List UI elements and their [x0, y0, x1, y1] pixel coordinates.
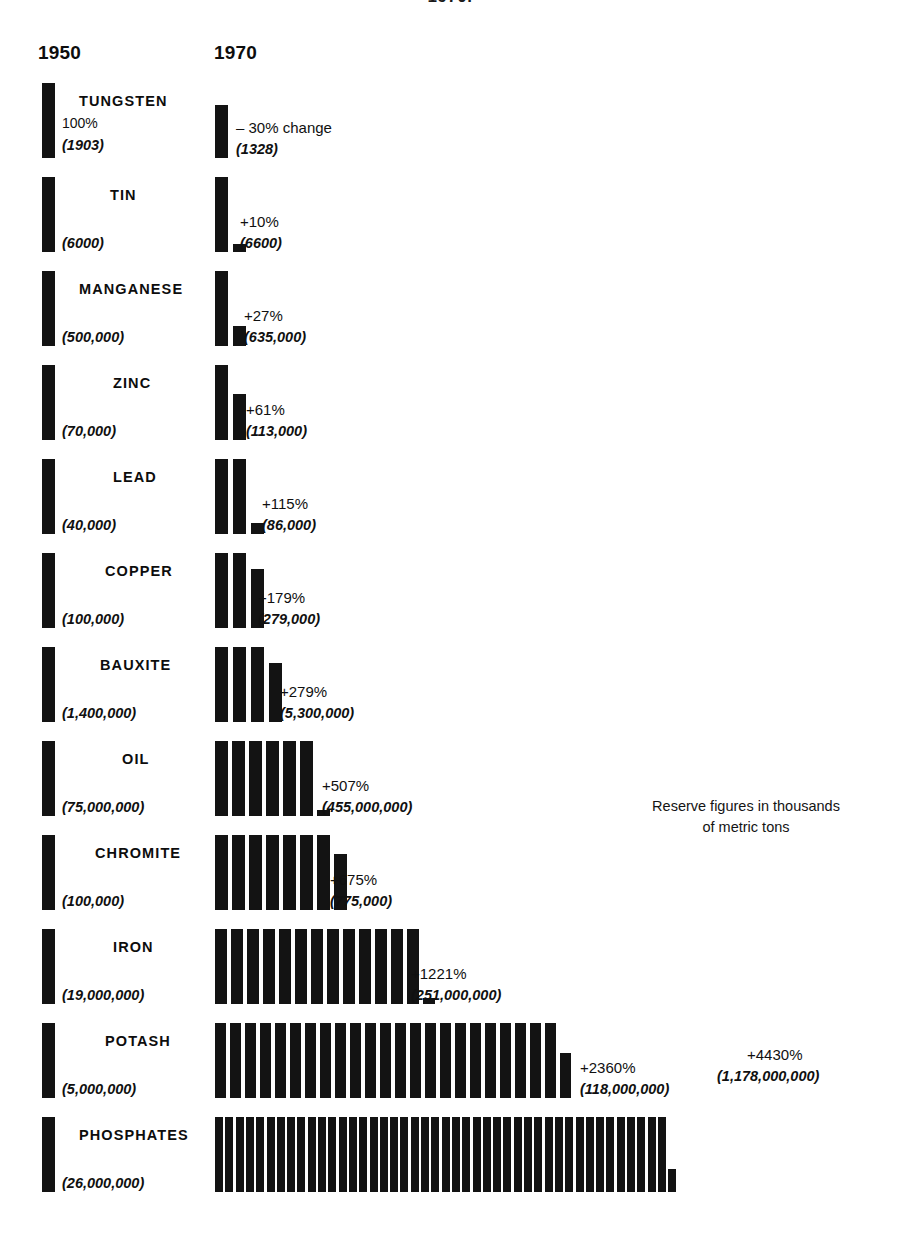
change-reserve-value: (5,300,000)	[280, 705, 354, 721]
baseline-reserve-value: (19,000,000)	[62, 987, 144, 1003]
chart-row: ZINC(70,000)+61%(113,000)	[0, 365, 900, 466]
change-percent: +1221%	[411, 965, 466, 982]
bar-unit-full	[534, 1117, 542, 1192]
mineral-label: ZINC	[113, 375, 151, 391]
baseline-reserve-value: (75,000,000)	[62, 799, 144, 815]
bar-unit-full	[327, 929, 339, 1004]
bar-unit-full	[230, 1023, 241, 1098]
change-reserve-value: (118,000,000)	[580, 1081, 669, 1097]
bar-unit-full	[370, 1117, 378, 1192]
bar-unit-full	[391, 929, 403, 1004]
bar-unit-full	[233, 647, 246, 722]
bar-unit-full	[493, 1117, 501, 1192]
bar-unit-full	[260, 1023, 271, 1098]
bar-unit-full	[247, 929, 259, 1004]
mineral-label: PHOSPHATES	[79, 1127, 189, 1143]
baseline-reserve-value: (6000)	[62, 235, 104, 251]
legend-line-1: Reserve figures in thousands	[652, 798, 840, 814]
bar-unit-full	[431, 1117, 439, 1192]
bar-unit-full	[365, 1023, 376, 1098]
bar-unit-full	[411, 1117, 419, 1192]
baseline-percent: 100%	[62, 115, 98, 131]
bar-unit-full	[452, 1117, 460, 1192]
bar-unit-full	[215, 1117, 223, 1192]
bar-unit-full	[421, 1117, 429, 1192]
bar-unit-full	[318, 1117, 326, 1192]
baseline-reserve-value: (100,000)	[62, 893, 124, 909]
bar-group-1970	[215, 83, 233, 158]
bar-unit-full	[279, 929, 291, 1004]
change-reserve-value: (775,000)	[330, 893, 392, 909]
bar-unit-full	[215, 835, 228, 910]
chart-row: TIN(6000)+10%(6600)	[0, 177, 900, 278]
mineral-label: LEAD	[113, 469, 157, 485]
bar-unit-full	[648, 1117, 656, 1192]
bar-unit-full	[606, 1117, 614, 1192]
mineral-label: POTASH	[105, 1033, 171, 1049]
bar-unit-full	[545, 1023, 556, 1098]
bar-unit-full	[215, 929, 227, 1004]
chart-row: IRON(19,000,000)+1221%(251,000,000)	[0, 929, 900, 1030]
bar-unit-full	[215, 177, 228, 252]
mineral-label: BAUXITE	[100, 657, 171, 673]
mineral-label: OIL	[122, 751, 149, 767]
bar-1950	[42, 835, 55, 910]
change-percent: +2360%	[580, 1059, 635, 1076]
bar-unit-full	[339, 1117, 347, 1192]
change-reserve-value: (251,000,000)	[411, 987, 501, 1003]
bar-unit-full	[462, 1117, 470, 1192]
bar-unit-full	[300, 835, 313, 910]
bar-unit-full	[400, 1117, 408, 1192]
change-reserve-value: (113,000)	[246, 423, 307, 439]
bar-unit-full	[283, 741, 296, 816]
mineral-label: CHROMITE	[95, 845, 181, 861]
change-percent: – 30% change	[236, 119, 332, 136]
chart-row: COPPER(100,000)+179%(279,000)	[0, 553, 900, 654]
bar-unit-full	[627, 1117, 635, 1192]
bar-unit-full	[249, 741, 262, 816]
bar-unit-partial	[233, 394, 246, 440]
bar-unit-full	[440, 1023, 451, 1098]
bar-unit-full	[455, 1023, 466, 1098]
chart-row: LEAD(40,000)+115%(86,000)	[0, 459, 900, 560]
bar-unit-full	[658, 1117, 666, 1192]
bar-1950	[42, 459, 55, 534]
bar-unit-partial	[215, 105, 228, 158]
bar-1950	[42, 177, 55, 252]
bar-unit-full	[335, 1023, 346, 1098]
baseline-reserve-value: (5,000,000)	[62, 1081, 136, 1097]
bar-unit-full	[473, 1117, 481, 1192]
bar-unit-full	[231, 929, 243, 1004]
bar-unit-full	[215, 459, 228, 534]
bar-unit-full	[375, 929, 387, 1004]
bar-1950	[42, 1117, 55, 1192]
baseline-reserve-value: (70,000)	[62, 423, 116, 439]
chart-row: CHROMITE(100,000)+675%(775,000)	[0, 835, 900, 936]
baseline-reserve-value: (100,000)	[62, 611, 124, 627]
bar-unit-full	[617, 1117, 625, 1192]
bar-unit-full	[343, 929, 355, 1004]
bar-unit-full	[350, 1023, 361, 1098]
bar-unit-partial	[668, 1169, 676, 1192]
bar-unit-full	[380, 1117, 388, 1192]
change-percent: +27%	[244, 307, 283, 324]
bar-group-1970	[215, 741, 334, 816]
bar-unit-full	[500, 1023, 511, 1098]
change-percent: +279%	[280, 683, 327, 700]
bar-unit-full	[233, 553, 246, 628]
bar-unit-full	[359, 929, 371, 1004]
bar-unit-full	[215, 1023, 226, 1098]
baseline-reserve-value: (1903)	[62, 137, 104, 153]
mineral-label: COPPER	[105, 563, 173, 579]
bar-unit-full	[410, 1023, 421, 1098]
bar-1950	[42, 741, 55, 816]
bar-unit-full	[266, 741, 279, 816]
bar-unit-full	[390, 1117, 398, 1192]
bar-unit-full	[483, 1117, 491, 1192]
change-percent: +61%	[246, 401, 285, 418]
bar-unit-full	[246, 1117, 254, 1192]
bar-unit-full	[576, 1117, 584, 1192]
change-reserve-value: (1328)	[236, 141, 278, 157]
mineral-label: TUNGSTEN	[79, 93, 168, 109]
bar-unit-full	[555, 1117, 563, 1192]
